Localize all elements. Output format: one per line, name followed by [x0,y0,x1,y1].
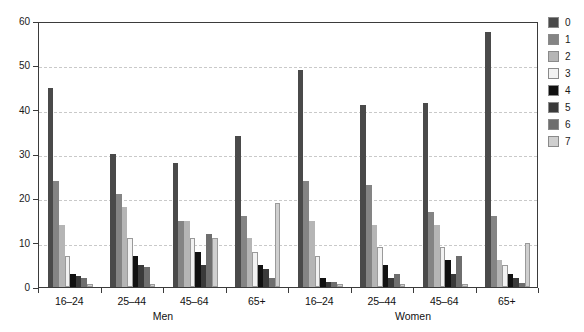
x-axis-group-label: 16–24 [288,295,351,307]
legend-swatch-icon [548,51,559,62]
x-axis-tick-mark [163,288,164,293]
x-axis-group-label: 16–24 [38,295,101,307]
legend-item[interactable]: 7 [548,133,582,150]
y-axis-tick-label: 60 [19,15,30,28]
x-axis-tick-mark [351,288,352,293]
bar-group [102,21,165,287]
legend-swatch-icon [548,68,559,79]
x-axis-tick-mark [101,288,102,293]
x-axis-tick-mark [413,288,414,293]
bars-layer [39,23,537,287]
bar-chart: 0102030405060 16–2425–4445–6465+16–2425–… [0,0,584,332]
x-axis-group-label: 45–64 [163,295,226,307]
legend-label: 5 [565,102,571,113]
y-axis-tick-label: 0 [25,281,30,294]
x-axis-group-label: 25–44 [101,295,164,307]
y-axis-tick-label: 30 [19,148,30,161]
bar [150,284,156,287]
bar-group [39,21,102,287]
bar [212,238,218,287]
legend-swatch-icon [548,136,559,147]
bar-group [227,21,290,287]
x-axis-tick-mark [226,288,227,293]
y-axis-tick-label: 20 [19,192,30,205]
x-axis-tick-mark [38,288,39,293]
bar [275,203,281,287]
bar [87,284,93,287]
x-axis-tick-mark [538,288,539,293]
bar-group [477,21,540,287]
bar [456,256,462,287]
legend-item[interactable]: 0 [548,14,582,31]
legend-label: 4 [565,85,571,96]
plot-area [38,22,538,288]
y-axis-tick-label: 10 [19,237,30,250]
legend-swatch-icon [548,119,559,130]
bar-group [352,21,415,287]
x-axis-group-label: 25–44 [351,295,414,307]
legend-item[interactable]: 1 [548,31,582,48]
x-axis: 16–2425–4445–6465+16–2425–4445–6465+MenW… [38,288,538,332]
legend-label: 7 [565,136,571,147]
legend-item[interactable]: 4 [548,82,582,99]
bar-group [289,21,352,287]
y-axis-tick-label: 50 [19,59,30,72]
legend-swatch-icon [548,102,559,113]
legend-swatch-icon [548,17,559,28]
legend-item[interactable]: 5 [548,99,582,116]
x-axis-group-label: 65+ [476,295,539,307]
bar [525,243,531,287]
bar [337,284,343,287]
x-axis-group-label: 45–64 [413,295,476,307]
bar [462,284,468,287]
x-axis-tick-mark [476,288,477,293]
legend-label: 6 [565,119,571,130]
x-axis-section-label: Men [38,310,288,322]
legend-swatch-icon [548,34,559,45]
legend-item[interactable]: 2 [548,48,582,65]
legend-label: 1 [565,34,571,45]
legend-item[interactable]: 6 [548,116,582,133]
y-axis: 0102030405060 [0,22,38,288]
bar-group [164,21,227,287]
bar-group [414,21,477,287]
x-axis-group-label: 65+ [226,295,289,307]
x-axis-tick-mark [288,288,289,293]
legend-label: 0 [565,17,571,28]
legend-label: 3 [565,68,571,79]
bar [400,284,406,287]
legend-label: 2 [565,51,571,62]
chart-legend: 01234567 [548,14,582,150]
x-axis-section-label: Women [288,310,538,322]
y-axis-tick-label: 40 [19,104,30,117]
legend-item[interactable]: 3 [548,65,582,82]
legend-swatch-icon [548,85,559,96]
